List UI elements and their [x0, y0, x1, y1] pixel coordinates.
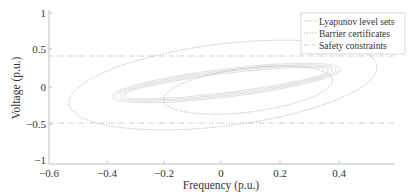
svg-text:0.4: 0.4: [332, 167, 346, 179]
svg-text:1: 1: [41, 7, 47, 19]
svg-text:−0.5: −0.5: [26, 118, 46, 130]
svg-text:−0.2: −0.2: [154, 167, 174, 179]
svg-text:0: 0: [218, 167, 224, 179]
legend-label-barrier: Barrier certificates: [319, 29, 390, 39]
y-axis-label: Voltage (p.u.): [10, 56, 23, 119]
x-axis-label: Frequency (p.u.): [183, 179, 259, 192]
svg-text:−0.6: −0.6: [39, 167, 59, 179]
svg-text:0.5: 0.5: [32, 43, 46, 55]
legend-label-lyapunov: Lyapunov level sets: [319, 17, 395, 27]
x-tick-labels: −0.6 −0.4 −0.2 0 0.2 0.4: [39, 167, 346, 179]
y-tick-labels: 1 0.5 0 −0.5 −1: [26, 7, 46, 166]
svg-text:−1: −1: [34, 154, 46, 166]
lyapunov-level-sets: [110, 55, 342, 111]
svg-text:0.2: 0.2: [273, 167, 287, 179]
legend: Lyapunov level sets Barrier certificates…: [301, 13, 405, 54]
legend-label-safety: Safety constraints: [319, 41, 387, 51]
safety-constraints: [49, 56, 395, 123]
svg-text:−0.4: −0.4: [97, 167, 117, 179]
phase-plot: −0.6 −0.4 −0.2 0 0.2 0.4 1 0.5 0 −0.5 −1…: [0, 0, 409, 192]
svg-text:0: 0: [41, 81, 47, 93]
